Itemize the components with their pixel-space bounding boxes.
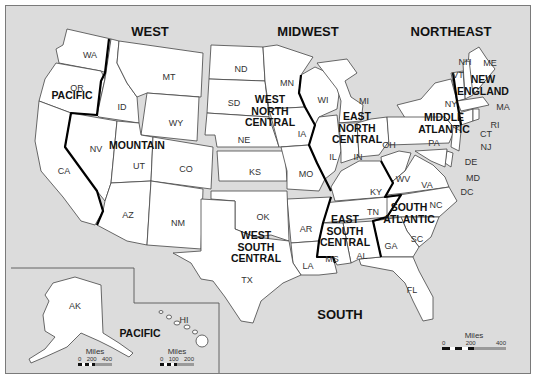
state-label-wy: WY <box>169 119 184 128</box>
state-label-wa: WA <box>83 51 97 60</box>
state-label-ny: NY <box>445 100 458 109</box>
state-label-nm: NM <box>171 219 185 228</box>
state-label-or: OR <box>70 84 84 93</box>
state-label-wi: WI <box>318 96 329 105</box>
us-census-regions-map: WEST MIDWEST NORTHEAST SOUTH PACIFIC MOU… <box>5 5 531 374</box>
state-label-hi: HI <box>180 316 189 325</box>
state-label-tx: TX <box>241 276 253 285</box>
division-mountain-label: MOUNTAIN <box>109 140 165 152</box>
state-label-nh: NH <box>459 58 472 67</box>
state-label-co: CO <box>179 165 193 174</box>
region-south-label: SOUTH <box>317 308 363 321</box>
scale-title: Miles <box>160 347 194 356</box>
state-label-me: ME <box>483 59 497 68</box>
state-label-dc: DC <box>461 188 474 197</box>
state-label-id: ID <box>118 103 127 112</box>
state-label-in: IN <box>354 153 363 162</box>
state-ri <box>473 109 479 121</box>
state-label-al: AL <box>356 252 367 261</box>
division-esc-label: EAST SOUTH CENTRAL <box>320 214 370 249</box>
state-label-az: AZ <box>122 211 134 220</box>
region-west-label: WEST <box>131 25 169 38</box>
state-label-ne: NE <box>238 136 251 145</box>
state-fl <box>359 257 433 321</box>
state-label-ks: KS <box>249 168 261 177</box>
scale-bar <box>78 363 112 366</box>
region-midwest-label: MIDWEST <box>277 25 338 38</box>
state-label-sd: SD <box>228 99 241 108</box>
scale-bar <box>160 363 194 366</box>
scale-title: Miles <box>78 347 112 356</box>
state-label-ky: KY <box>370 188 382 197</box>
scale-bar <box>442 347 506 350</box>
scale-title: Miles <box>442 331 506 340</box>
state-label-mt: MT <box>163 73 176 82</box>
region-northeast-label: NORTHEAST <box>411 25 492 38</box>
division-wsc-label: WEST SOUTH CENTRAL <box>231 230 281 265</box>
state-label-ma: MA <box>496 103 510 112</box>
map-shapes <box>6 6 531 374</box>
state-label-la: LA <box>302 262 313 271</box>
state-label-fl: FL <box>407 286 418 295</box>
state-label-ak: AK <box>69 302 81 311</box>
state-label-mi: MI <box>359 97 369 106</box>
division-new-england-label: NEW ENGLAND <box>457 74 509 97</box>
state-label-tn: TN <box>367 208 379 217</box>
state-nm <box>147 181 203 249</box>
state-label-pa: PA <box>428 139 439 148</box>
state-label-vt: VT <box>452 71 464 80</box>
state-label-ct: CT <box>480 130 492 139</box>
division-middle-atlantic-label: MIDDLE ATLANTIC <box>418 112 470 135</box>
state-label-mn: MN <box>280 79 294 88</box>
state-label-va: VA <box>421 181 432 190</box>
state-label-ut: UT <box>133 162 145 171</box>
state-label-nv: NV <box>90 145 103 154</box>
state-label-md: MD <box>466 174 480 183</box>
state-label-nj: NJ <box>481 143 492 152</box>
alaska-scale: Miles 0200400 <box>78 347 112 366</box>
state-label-ar: AR <box>300 225 313 234</box>
state-label-sc: SC <box>411 235 424 244</box>
state-label-oh: OH <box>382 141 396 150</box>
division-pacific-inset-label: PACIFIC <box>119 328 160 340</box>
state-label-nc: NC <box>430 201 443 210</box>
division-wnc-label: WEST NORTH CENTRAL <box>245 94 295 129</box>
state-label-mo: MO <box>299 170 314 179</box>
division-enc-label: EAST NORTH CENTRAL <box>332 111 382 146</box>
state-label-ga: GA <box>384 242 397 251</box>
state-label-ca: CA <box>58 167 71 176</box>
state-label-nd: ND <box>235 65 248 74</box>
state-label-wv: WV <box>396 175 411 184</box>
mainland-scale: Miles 0200400 <box>442 331 506 350</box>
division-south-atlantic-label: SOUTH ATLANTIC <box>383 202 435 225</box>
hawaii-scale: Miles 0100200 <box>160 347 194 366</box>
state-label-ms: MS <box>325 255 339 264</box>
state-label-il: IL <box>329 153 337 162</box>
state-label-de: DE <box>465 158 478 167</box>
state-label-ia: IA <box>298 130 307 139</box>
state-label-ok: OK <box>256 213 269 222</box>
